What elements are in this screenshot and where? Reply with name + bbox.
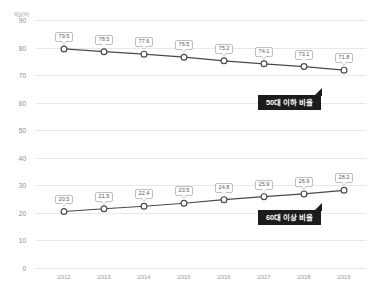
data-point-marker [301, 191, 307, 197]
data-point-marker [341, 187, 347, 193]
y-axis-tick-label: 50 [0, 127, 26, 134]
data-point-label: 76.5 [175, 40, 193, 50]
data-point-marker [301, 64, 307, 70]
y-axis-tick-label: 0 [0, 265, 26, 272]
y-axis-tick-label: 20 [0, 209, 26, 216]
data-point-label: 74.1 [255, 47, 273, 57]
data-point-marker [181, 54, 187, 60]
data-point-marker [101, 49, 107, 55]
series-callout-label: 50대 이하 비율 [258, 95, 321, 110]
data-point-marker [141, 203, 147, 209]
data-point-label: 71.8 [335, 53, 353, 63]
data-point-marker [61, 46, 67, 52]
data-point-marker [261, 61, 267, 67]
x-axis-tick-label: 2015 [177, 274, 190, 280]
callout-tail-icon [314, 203, 322, 211]
y-axis-tick-label: 60 [0, 99, 26, 106]
y-axis-tick-label: 30 [0, 182, 26, 189]
data-point-label: 21.5 [95, 192, 113, 202]
data-point-marker [101, 206, 107, 212]
y-axis-tick-label: 70 [0, 72, 26, 79]
x-axis-tick-label: 2014 [137, 274, 150, 280]
data-point-label: 78.5 [95, 35, 113, 45]
data-point-label: 24.8 [215, 183, 233, 193]
y-axis-tick-label: 10 [0, 237, 26, 244]
gridline [36, 268, 366, 269]
data-point-label: 22.4 [135, 189, 153, 199]
series-callout-label: 60대 이상 비율 [258, 210, 321, 225]
x-axis-tick-label: 2012 [57, 274, 70, 280]
data-point-label: 25.9 [255, 180, 273, 190]
data-point-marker [261, 194, 267, 200]
chart-container: 비율(%) 0102030405060708090 20122013201420… [0, 0, 375, 303]
plot-area: 0102030405060708090 20122013201420152016… [36, 20, 366, 268]
series-layer [36, 20, 366, 268]
data-point-label: 20.5 [55, 195, 73, 205]
data-point-label: 75.2 [215, 44, 233, 54]
data-point-label: 79.5 [55, 32, 73, 42]
x-axis-tick-label: 2018 [297, 274, 310, 280]
data-point-label: 26.9 [295, 177, 313, 187]
y-axis-tick-label: 80 [0, 44, 26, 51]
data-point-marker [141, 51, 147, 57]
data-point-marker [221, 58, 227, 64]
data-point-marker [341, 67, 347, 73]
callout-tail-icon [314, 88, 322, 96]
x-axis-tick-label: 2016 [217, 274, 230, 280]
data-point-label: 28.2 [335, 173, 353, 183]
x-axis-tick-label: 2019 [337, 274, 350, 280]
data-point-label: 23.5 [175, 186, 193, 196]
data-point-marker [61, 209, 67, 215]
y-axis-tick-label: 40 [0, 154, 26, 161]
data-point-marker [221, 197, 227, 203]
x-axis-tick-label: 2017 [257, 274, 270, 280]
data-point-marker [181, 200, 187, 206]
data-point-label: 73.1 [295, 50, 313, 60]
x-axis-tick-label: 2013 [97, 274, 110, 280]
data-point-label: 77.6 [135, 37, 153, 47]
y-axis-tick-label: 90 [0, 17, 26, 24]
